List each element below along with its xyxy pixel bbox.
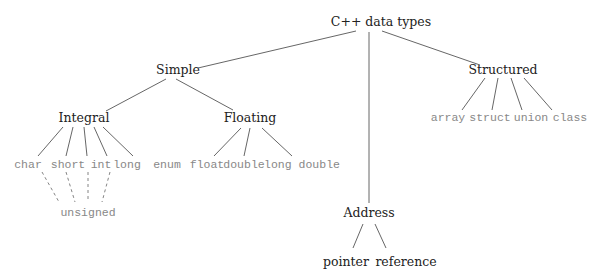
tree-edges bbox=[0, 0, 604, 276]
unsigned-node: unsigned bbox=[60, 207, 115, 219]
pointer-node: pointer bbox=[323, 256, 369, 269]
edge-char-unsigned bbox=[42, 172, 59, 202]
structured-node: Structured bbox=[468, 64, 537, 77]
short-leaf: short bbox=[51, 159, 86, 171]
edge-long-unsigned bbox=[102, 172, 110, 202]
edge-root-structured bbox=[382, 31, 480, 65]
class-leaf: class bbox=[553, 112, 588, 124]
root-node: C++ data types bbox=[331, 16, 431, 29]
struct-leaf: struct bbox=[469, 112, 510, 124]
long-double-leaf: long double bbox=[264, 159, 340, 171]
enum-leaf: enum bbox=[153, 159, 181, 171]
edge-simple-floating bbox=[176, 79, 233, 110]
union-leaf: union bbox=[514, 112, 549, 124]
edge-integral-int bbox=[84, 127, 87, 156]
floating-node: Floating bbox=[224, 112, 277, 125]
edge-address-reference bbox=[375, 224, 386, 248]
reference-node: reference bbox=[375, 256, 436, 269]
long-leaf: long bbox=[113, 159, 141, 171]
cpp-data-types-tree: C++ data types Simple Structured Integra… bbox=[0, 0, 604, 276]
int-leaf: int bbox=[91, 159, 112, 171]
edge-structured-union bbox=[511, 78, 522, 110]
edge-floating-long-double bbox=[262, 128, 292, 156]
double-leaf: double bbox=[223, 159, 264, 171]
edge-structured-class bbox=[524, 78, 552, 110]
array-leaf: array bbox=[431, 112, 466, 124]
edge-integral-long bbox=[94, 127, 107, 156]
edge-floating-double bbox=[244, 128, 250, 156]
edge-short-unsigned bbox=[66, 172, 75, 202]
float-leaf: float bbox=[190, 159, 225, 171]
address-node: Address bbox=[343, 207, 394, 220]
edge-root-simple bbox=[198, 31, 356, 68]
edge-address-pointer bbox=[353, 224, 363, 248]
edge-structured-array bbox=[462, 78, 485, 110]
simple-node: Simple bbox=[156, 64, 200, 77]
integral-node: Integral bbox=[59, 112, 110, 125]
edge-integral-enum bbox=[103, 127, 133, 156]
edge-floating-float bbox=[214, 128, 241, 156]
edge-integral-short bbox=[66, 127, 73, 156]
edge-structured-struct bbox=[492, 78, 498, 110]
edge-integral-char bbox=[38, 127, 63, 156]
edge-simple-integral bbox=[106, 79, 166, 111]
char-leaf: char bbox=[14, 159, 42, 171]
